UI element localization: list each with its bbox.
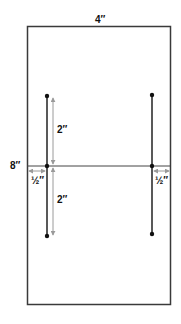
left-margin-label: ½″ (31, 175, 44, 186)
width-label: 4″ (95, 14, 106, 25)
right-center-dot (150, 164, 154, 168)
right-bottom-dot (150, 232, 154, 236)
right-margin-label: ½″ (155, 175, 168, 186)
left-top-dot (45, 94, 49, 98)
left-center-dot (45, 164, 49, 168)
right-top-dot (150, 93, 154, 97)
height-label: 8″ (10, 160, 21, 171)
diagram-canvas: 4″ 8″ 2″ 2″ ½″ ½″ (0, 0, 181, 324)
left-bottom-dot (45, 234, 49, 238)
upper-segment-label: 2″ (57, 124, 68, 135)
lower-segment-label: 2″ (57, 194, 68, 205)
